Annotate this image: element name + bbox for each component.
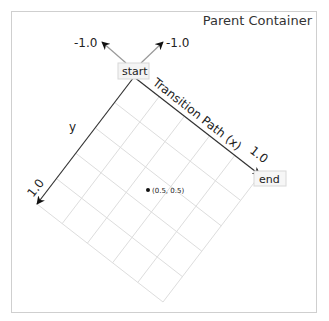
- x-axis-arrow: [134, 77, 260, 175]
- x-end-tick-label: 1.0: [247, 143, 271, 166]
- x-axis-label: Transition Path (x): [149, 75, 244, 153]
- grid-line: [62, 97, 159, 224]
- grid-line: [76, 153, 202, 251]
- grid-line: [87, 116, 184, 243]
- neg-y-tick-label: -1.0: [166, 36, 189, 50]
- end-label: end: [259, 173, 280, 186]
- grid-line: [95, 128, 221, 226]
- grid-line: [138, 155, 235, 282]
- y-axis-label: y: [69, 120, 76, 134]
- grid-line: [37, 204, 163, 302]
- neg-x-tick-label: -1.0: [74, 36, 97, 50]
- transition-diagram: -1.0 -1.0 Transition Path (x) 1.0 y 1.0 …: [0, 0, 329, 321]
- neg-y-arrow: [141, 42, 163, 63]
- midpoint-label: (0.5, 0.5): [152, 187, 184, 195]
- neg-x-arrow: [102, 42, 126, 63]
- start-label: start: [122, 65, 148, 78]
- y-end-tick-label: 1.0: [24, 176, 47, 200]
- grid-line: [113, 136, 210, 263]
- y-axis-arrow: [37, 77, 134, 204]
- midpoint-marker: [146, 188, 150, 192]
- grid-line: [115, 102, 241, 200]
